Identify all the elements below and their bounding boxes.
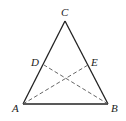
label-c: C [61, 6, 69, 18]
label-e: E [90, 56, 98, 68]
segment-ac [23, 21, 65, 104]
label-a: A [11, 102, 19, 114]
label-b: B [111, 102, 118, 114]
label-d: D [30, 56, 39, 68]
segment-bc [65, 21, 108, 104]
triangle-diagram: C D E A B [0, 0, 126, 121]
